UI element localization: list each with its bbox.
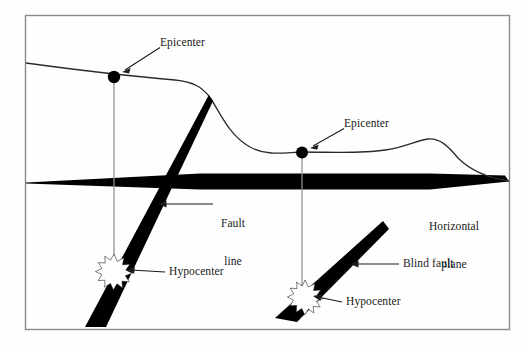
ground-surface-curve (26, 63, 509, 181)
label-fault-line: Fault line (216, 191, 250, 294)
label-horizontal-plane: Horizontal plane (418, 194, 490, 297)
label-horizontal-plane-row2: plane (418, 258, 490, 271)
epicenter-dot-right (296, 147, 308, 159)
leader-hypocenter-right (318, 297, 342, 302)
label-hypocenter-left: Hypocenter (169, 265, 224, 278)
horizontal-plane-band (26, 174, 509, 190)
label-epicenter-right: Epicenter (344, 117, 389, 130)
label-hypocenter-right: Hypocenter (346, 295, 401, 308)
label-horizontal-plane-row1: Horizontal (418, 220, 490, 233)
label-epicenter-left: Epicenter (160, 36, 205, 49)
leader-epicenter-left (125, 48, 160, 71)
fault-line-band (85, 96, 213, 328)
diagram-canvas: Epicenter Epicenter Fault line Hypocente… (0, 0, 527, 346)
leader-epicenter-right (313, 129, 344, 147)
label-fault-line-row1: Fault (216, 217, 250, 230)
leader-hypocenter-left (131, 270, 165, 272)
epicenter-dot-left (108, 71, 120, 83)
